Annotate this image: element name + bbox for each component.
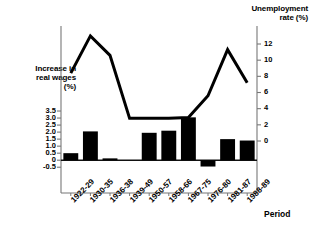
chart-container: Increase in real wages (%) Unemployment …	[0, 0, 310, 246]
bar	[240, 141, 255, 161]
bar	[201, 160, 216, 166]
right-tick-label: 0	[264, 137, 268, 145]
bar	[63, 153, 78, 160]
left-tick-label: -0.5	[24, 163, 56, 171]
bar	[83, 131, 98, 160]
bar	[161, 131, 176, 161]
bar	[220, 139, 235, 160]
right-tick-label: 2	[264, 121, 268, 129]
bar	[103, 158, 118, 160]
right-tick-label: 6	[264, 88, 268, 96]
right-tick-label: 10	[264, 56, 272, 64]
bar	[181, 117, 196, 160]
right-tick-label: 4	[264, 104, 268, 112]
right-tick-label: 8	[264, 72, 268, 80]
unemployment-line	[71, 36, 247, 118]
right-tick-label: 12	[264, 40, 272, 48]
bar	[142, 133, 157, 160]
